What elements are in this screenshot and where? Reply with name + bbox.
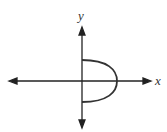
x-axis-label: x: [154, 73, 161, 88]
y-axis-label: y: [76, 8, 84, 23]
graph: x y: [0, 0, 167, 132]
x-axis: [9, 78, 151, 84]
x-axis-right-arrow-icon: [143, 78, 151, 84]
y-axis-down-arrow-icon: [79, 120, 85, 128]
x-axis-left-arrow-icon: [9, 78, 17, 84]
y-axis-up-arrow-icon: [79, 27, 85, 35]
y-axis: [79, 27, 85, 128]
